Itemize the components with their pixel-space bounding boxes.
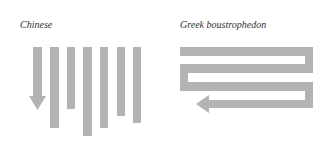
column-bar	[83, 47, 92, 136]
greek-boustrophedon-diagram	[180, 47, 313, 113]
column-bar	[117, 47, 125, 116]
down-arrow-icon	[29, 47, 46, 110]
column-bar	[133, 47, 141, 123]
column-bar	[100, 47, 108, 128]
writing-direction-diagrams	[0, 0, 323, 147]
chinese-columns-diagram	[29, 47, 141, 136]
column-bar	[50, 47, 59, 128]
column-bar	[67, 47, 75, 109]
left-arrow-icon	[196, 95, 209, 113]
